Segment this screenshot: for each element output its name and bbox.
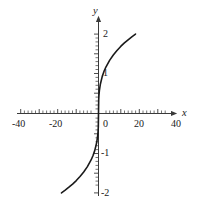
y-tick-label-neg1: -1	[101, 148, 109, 158]
x-axis-major-ticks	[21, 109, 158, 114]
y-axis-label: y	[93, 6, 98, 17]
x-tick-label-zero: 0	[103, 119, 108, 129]
y-tick-label-1: 1	[103, 68, 108, 78]
x-tick-label-20: 20	[134, 119, 144, 129]
x-axis-label: x	[182, 108, 187, 119]
x-tick-label-neg20: -20	[49, 119, 62, 129]
x-tick-label-40: 40	[171, 119, 181, 129]
y-tick-label-neg2: -2	[101, 188, 109, 198]
figure-canvas: -40 -20 0 20 40 2 1 -1 -2 y x	[0, 0, 202, 203]
y-tick-label-2: 2	[103, 29, 108, 39]
x-tick-label-neg40: -40	[12, 119, 25, 129]
plot-area	[0, 0, 202, 203]
